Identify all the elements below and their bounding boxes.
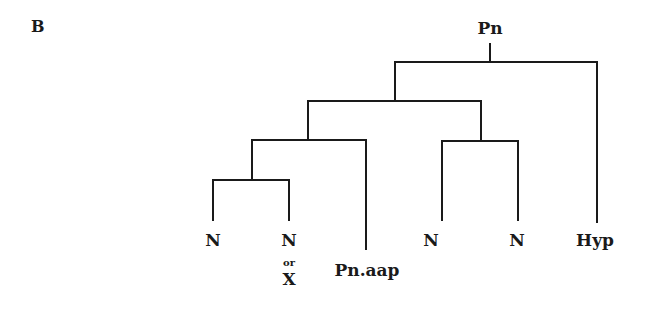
leaf-label-n2: N (281, 232, 297, 249)
root-label: Pn (477, 20, 502, 37)
leaf-label-n4: N (423, 232, 439, 249)
leaf-label-or: or (283, 258, 295, 268)
leaf-label-n1: N (205, 232, 221, 249)
leaf-label-pnaap: Pn.aap (335, 262, 400, 279)
phylogenetic-tree (0, 0, 646, 321)
leaf-label-n5: N (509, 232, 525, 249)
leaf-label-hyp: Hyp (576, 232, 614, 249)
leaf-label-x: X (282, 271, 295, 288)
